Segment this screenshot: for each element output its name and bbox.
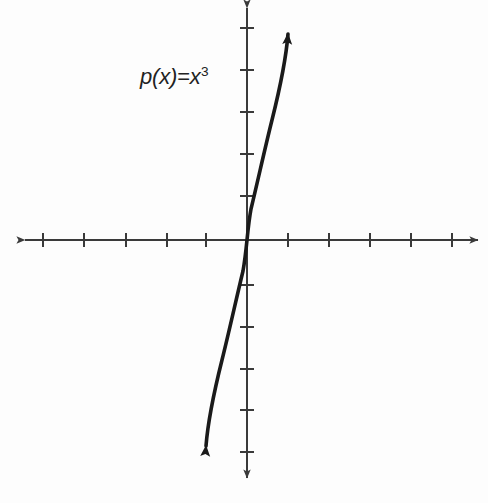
function-label-variable: x: [159, 64, 170, 89]
graph-figure: p(x)=x3: [0, 0, 488, 503]
function-label-exponent: 3: [201, 64, 208, 79]
function-label-base: x: [190, 64, 201, 89]
function-label-equals: =: [177, 64, 190, 89]
x-axis-group: [25, 233, 478, 247]
coordinate-plane-svg: [0, 0, 488, 503]
function-label: p(x)=x3: [140, 64, 209, 90]
function-label-name: p: [140, 64, 152, 89]
